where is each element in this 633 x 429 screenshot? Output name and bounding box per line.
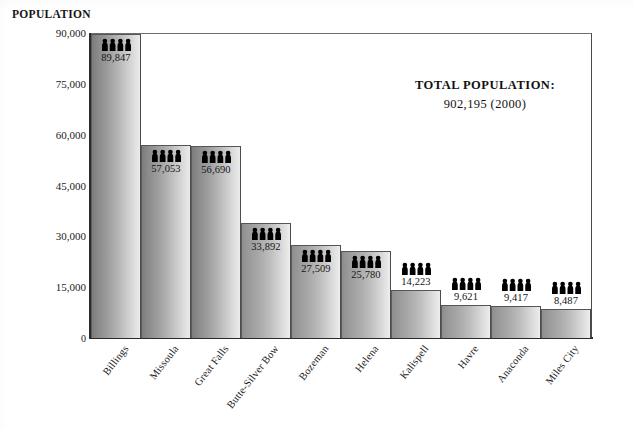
x-axis-category-labels: BillingsMissoulaGreat FallsButte-Silver … <box>91 341 591 429</box>
x-category-label-helena: Helena <box>353 343 381 374</box>
bar-kalispell[interactable] <box>391 290 441 338</box>
x-category-label-bozeman: Bozeman <box>297 343 331 382</box>
bar-butte-silver-bow[interactable] <box>241 223 291 338</box>
y-tick-label: 30,000 <box>2 230 86 242</box>
people-group-icon <box>551 281 582 294</box>
y-tick-label: 90,000 <box>2 27 86 39</box>
y-axis-tick-labels: 015,00030,00045,00060,00075,00090,000 <box>0 0 86 429</box>
x-category-label-great-falls: Great Falls <box>192 343 231 388</box>
people-group-icon <box>451 277 482 290</box>
total-population-label: TOTAL POPULATION: <box>385 76 585 95</box>
y-tick-label: 45,000 <box>2 180 86 192</box>
x-category-label-missoula: Missoula <box>147 343 180 381</box>
y-tick-label: 15,000 <box>2 281 86 293</box>
bar-havre[interactable] <box>441 305 491 338</box>
people-group-icon <box>401 262 432 275</box>
bar-marker: 14,223 <box>391 262 441 287</box>
bar-marker: 9,621 <box>441 277 491 302</box>
bar-miles-city[interactable] <box>541 309 591 338</box>
bar-anaconda[interactable] <box>491 306 541 338</box>
bar-marker: 9,417 <box>491 278 541 303</box>
bar-billings[interactable] <box>91 34 141 338</box>
y-tick-label: 60,000 <box>2 129 86 141</box>
x-category-label-anaconda: Anaconda <box>495 343 531 385</box>
x-category-label-billings: Billings <box>101 343 131 377</box>
bar-value-label: 9,621 <box>441 291 491 302</box>
bar-marker: 8,487 <box>541 281 591 306</box>
bar-helena[interactable] <box>341 251 391 338</box>
x-category-label-butte-silver-bow: Butte-Silver Bow <box>225 343 281 410</box>
bar-value-label: 14,223 <box>391 276 441 287</box>
bar-great-falls[interactable] <box>191 146 241 338</box>
y-tick-label: 75,000 <box>2 78 86 90</box>
population-bar-chart: POPULATION 015,00030,00045,00060,00075,0… <box>0 0 633 429</box>
x-category-label-havre: Havre <box>456 343 481 371</box>
total-population-value: 902,195 (2000) <box>385 95 585 114</box>
bar-missoula[interactable] <box>141 145 191 338</box>
y-tick-label: 0 <box>0 333 86 344</box>
x-category-label-miles-city: Miles City <box>543 343 580 387</box>
bar-value-label: 9,417 <box>491 292 541 303</box>
total-population-annotation: TOTAL POPULATION: 902,195 (2000) <box>385 76 585 115</box>
bar-bozeman[interactable] <box>291 245 341 338</box>
people-group-icon <box>501 278 532 291</box>
bar-value-label: 8,487 <box>541 295 591 306</box>
x-category-label-kalispell: Kalispell <box>398 343 431 381</box>
